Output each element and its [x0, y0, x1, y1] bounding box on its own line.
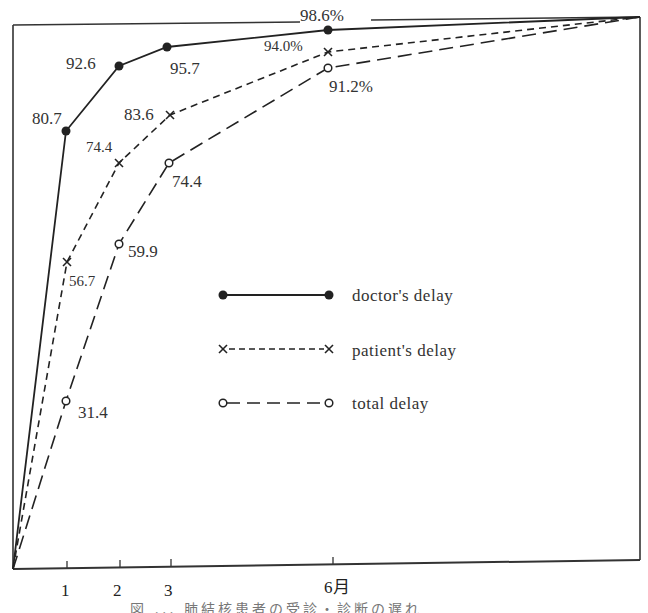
point-marker — [324, 26, 333, 35]
tick-label-2: 2 — [113, 581, 122, 600]
legend-item-doctors-delay: doctor's delay — [219, 286, 454, 305]
figure-caption: 図 ... 肺結核患者の受診・診断の遅れ — [130, 598, 422, 613]
point-marker — [163, 43, 172, 52]
point-marker — [63, 48, 332, 266]
data-label: 59.9 — [128, 242, 158, 261]
legend-label: doctor's delay — [352, 286, 453, 305]
data-label: 83.6 — [124, 105, 154, 124]
data-label: 95.7 — [170, 59, 200, 78]
data-label: 94.0% — [264, 38, 303, 54]
tick-label-1: 1 — [61, 581, 70, 600]
series-doctors-delay: 80.7 92.6 95.7 98.6% — [13, 6, 640, 569]
tick-label-6: 6月 — [324, 578, 350, 597]
data-label: 74.4 — [172, 172, 202, 191]
data-label: 56.7 — [69, 273, 96, 289]
x-axis-tick-labels: 1 2 3 6月 — [61, 578, 350, 600]
legend-label: patient's delay — [352, 341, 457, 360]
data-label: 80.7 — [32, 109, 62, 128]
legend-item-total-delay: total delay — [219, 394, 429, 413]
legend-label: total delay — [352, 394, 429, 413]
data-label: 98.6% — [300, 6, 344, 25]
legend-item-patients-delay: patient's delay — [219, 341, 457, 360]
data-label: 91.2% — [329, 77, 373, 96]
data-label: 31.4 — [78, 403, 108, 422]
cumulative-delay-chart: 1 2 3 6月 80.7 92.6 95.7 98.6% 56.7 74.4 … — [0, 0, 648, 613]
point-marker — [115, 62, 124, 71]
x-axis — [13, 560, 640, 569]
legend: doctor's delay patient's delay total del… — [219, 286, 457, 413]
data-label: 92.6 — [66, 54, 96, 73]
point-marker — [62, 64, 332, 405]
point-marker — [62, 127, 71, 136]
data-label: 74.4 — [86, 139, 113, 155]
